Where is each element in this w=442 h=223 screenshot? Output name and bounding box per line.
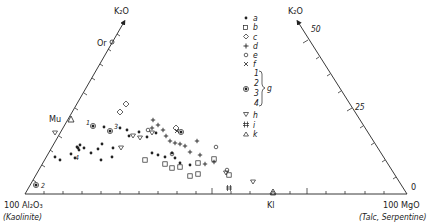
data-point-d-icon: [150, 126, 154, 130]
data-point-d-icon: [198, 153, 202, 157]
data-point-a-icon: [189, 164, 192, 167]
data-point-a-icon: [119, 127, 122, 130]
data-point-d-icon: [195, 139, 199, 143]
data-point-d-icon: [164, 134, 168, 138]
muscovite-label: Mu: [49, 114, 61, 124]
right-axis-ticks: [303, 40, 396, 179]
al2o3-vertex-sublabel: (Kaolinite): [3, 212, 42, 222]
data-point-a-icon: [83, 147, 86, 150]
data-point-a-icon: [112, 147, 115, 150]
data-point-a-icon: [97, 148, 100, 151]
data-point-g-icon: [180, 131, 183, 134]
right-tick-50: 50: [311, 24, 321, 34]
left-axis: [25, 22, 124, 194]
data-point-b-icon: [196, 161, 200, 165]
data-point-a-icon: [70, 153, 73, 156]
data-point-a-icon: [54, 156, 57, 159]
data-point-h-icon: [150, 131, 155, 135]
data-point-a-icon: [151, 152, 154, 155]
data-point-d-icon: [212, 160, 216, 164]
legend-symbol-h-icon: [244, 113, 249, 117]
point-label-g2: 2: [41, 182, 45, 190]
legend-label-h: h: [253, 110, 258, 120]
data-point-b-icon: [163, 162, 167, 166]
data-point-d-icon: [156, 123, 160, 127]
orthoclase-label: Or: [97, 38, 107, 48]
data-point-a-icon: [174, 157, 177, 160]
data-point-a-icon: [90, 152, 93, 155]
legend-symbol-f-icon: [244, 62, 248, 66]
data-point-e-icon: [214, 145, 218, 149]
data-point-a-icon: [128, 135, 131, 138]
legend-label-g: g: [267, 83, 272, 93]
legend-g-brace: [259, 71, 265, 106]
data-point-c-icon: [117, 109, 123, 115]
data-point-c-icon: [123, 101, 129, 107]
data-point-d-icon: [161, 128, 165, 132]
bottom-axis-ticks: [44, 188, 384, 194]
data-point-a-icon: [100, 159, 103, 162]
data-point-b-icon: [188, 174, 192, 178]
data-point-h-icon: [119, 146, 124, 150]
data-point-b-icon: [196, 172, 200, 176]
data-point-a-icon: [157, 154, 160, 157]
data-point-a-icon: [155, 132, 158, 135]
point-label-g1: 1: [86, 119, 90, 127]
legend-symbol-c-icon: [244, 34, 249, 39]
mgo-vertex-sublabel: (Talc, Serpentine): [359, 212, 426, 222]
data-point-a-icon: [103, 126, 106, 129]
data-point-g-icon: [109, 130, 112, 133]
data-point-h-icon: [53, 131, 58, 135]
al2o3-vertex-label: 100 Al₂O₃: [4, 200, 43, 210]
data-point-a-icon: [164, 156, 167, 159]
kaolinite-bottom-label: Kl: [267, 200, 275, 210]
data-point-d-icon: [168, 139, 172, 143]
data-point-b-icon: [170, 166, 174, 170]
right-tick-0: 0: [411, 182, 416, 192]
legend-symbol-d-icon: [244, 44, 249, 49]
legend-symbol-e-icon: [244, 53, 248, 57]
data-point-a-icon: [79, 144, 82, 147]
legend-g-member-3: 3: [254, 88, 259, 98]
legend-g-member-1: 1: [254, 68, 259, 78]
data-points: [33, 101, 275, 195]
data-point-d-icon: [178, 142, 182, 146]
right-axis: [298, 22, 407, 194]
data-point-d-icon: [151, 118, 155, 122]
right-tick-25: 25: [355, 102, 365, 112]
legend-g-member-2: 2: [254, 78, 259, 88]
ternary-diagram: K₂O K₂O Or Mu Kl 50 25 0 100 Al₂O₃ (Kaol…: [0, 0, 442, 223]
data-point-a-icon: [138, 131, 141, 134]
point-label-g4: 4: [75, 154, 79, 162]
data-point-h-icon: [131, 134, 136, 138]
data-point-d-icon: [173, 141, 177, 145]
legend-symbol-b-icon: [244, 26, 248, 30]
data-point-a-icon: [179, 162, 182, 165]
legend-label-k: k: [253, 129, 258, 139]
data-point-a-icon: [101, 143, 104, 146]
legend-label-b: b: [253, 22, 258, 32]
data-point-i-icon: [226, 185, 232, 191]
data-point-a-icon: [126, 129, 129, 132]
legend-symbol-g-center-icon: [245, 88, 248, 91]
data-point-g-icon: [35, 184, 38, 187]
data-point-d-icon: [183, 144, 187, 148]
left-apex-label: K₂O: [114, 6, 129, 16]
data-point-g-icon: [92, 125, 95, 128]
data-point-h-icon: [138, 136, 143, 140]
data-point-a-icon: [78, 149, 81, 152]
legend-g-member-4: 4: [254, 98, 259, 108]
point-label-g3: 3: [114, 123, 118, 131]
legend-symbol-i-icon: [243, 122, 249, 128]
legend-symbol-k-icon: [244, 132, 249, 136]
data-point-b-icon: [178, 165, 182, 169]
data-point-h-icon: [251, 180, 256, 184]
right-apex-label: K₂O: [288, 6, 303, 16]
data-point-b-icon: [227, 173, 231, 177]
data-point-a-icon: [59, 159, 62, 162]
data-point-b-icon: [143, 158, 147, 162]
data-point-d-icon: [203, 162, 207, 166]
data-point-d-icon: [188, 150, 192, 154]
mgo-vertex-label: 100 MgO: [383, 200, 420, 210]
data-point-a-icon: [111, 156, 114, 159]
